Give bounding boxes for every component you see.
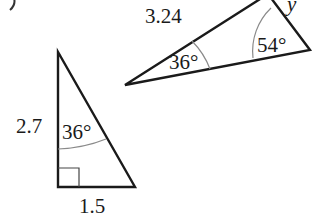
large-angle-right-label: 54° [257, 35, 286, 56]
large-angle-left-label: 36° [169, 52, 198, 73]
small-vertical-side-label: 2.7 [16, 116, 42, 137]
large-hypotenuse-label: 3.24 [145, 6, 182, 27]
part-label-remnant [10, 0, 15, 10]
unknown-side-y-label: y [287, 0, 296, 15]
small-base-label: 1.5 [79, 196, 105, 217]
right-angle-marker [58, 168, 79, 187]
small-angle-top-label: 36° [62, 122, 91, 143]
